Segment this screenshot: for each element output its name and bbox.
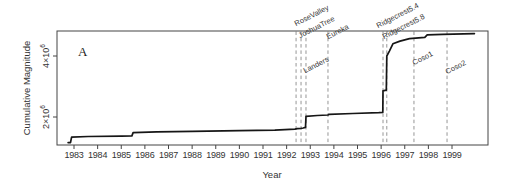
x-tick-label-1994: 1994 [321, 150, 347, 160]
x-tick-label-1999: 1999 [439, 150, 465, 160]
series-cumulative-magnitude [68, 34, 474, 143]
x-tick-label-1983: 1983 [61, 150, 87, 160]
x-tick-label-1984: 1984 [85, 150, 111, 160]
x-tick-label-1988: 1988 [179, 150, 205, 160]
x-tick-label-1995: 1995 [345, 150, 371, 160]
x-tick-label-1986: 1986 [132, 150, 158, 160]
x-tick-label-1998: 1998 [415, 150, 441, 160]
cumulative-magnitude-chart: A Year Cumulative Magnitude 198319841985… [0, 0, 512, 187]
y-tick-label-2e6: 2×106 [39, 105, 51, 129]
x-tick-label-1996: 1996 [368, 150, 394, 160]
x-tick-label-1992: 1992 [274, 150, 300, 160]
panel-letter: A [78, 44, 87, 60]
plot-frame [57, 31, 488, 145]
x-tick-label-1993: 1993 [297, 150, 323, 160]
x-tick-label-1985: 1985 [108, 150, 134, 160]
y-axis-title: Cumulative Magnitude [21, 41, 32, 136]
y-tick-label-4e6: 4×106 [39, 44, 51, 68]
x-tick-label-1997: 1997 [392, 150, 418, 160]
x-tick-label-1989: 1989 [203, 150, 229, 160]
x-tick-label-1991: 1991 [250, 150, 276, 160]
x-tick-label-1990: 1990 [226, 150, 252, 160]
x-tick-label-1987: 1987 [156, 150, 182, 160]
x-axis-title: Year [262, 169, 281, 180]
